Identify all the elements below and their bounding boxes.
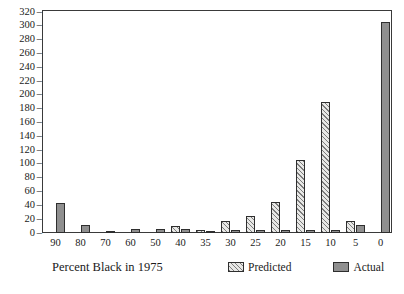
bar-predicted-15 <box>296 160 305 233</box>
y-tick-60: 60– <box>25 185 43 196</box>
y-tick-mark-icon: – <box>35 144 42 155</box>
y-tick-180: 180– <box>19 102 42 113</box>
y-tick-label: 240 <box>19 61 35 72</box>
y-tick-mark-icon: – <box>35 227 42 238</box>
bar-actual-15 <box>306 230 315 233</box>
legend-label-predicted: Predicted <box>248 261 291 273</box>
bar-predicted-5 <box>346 221 355 233</box>
y-tick-240: 240– <box>19 61 42 72</box>
y-tick-260: 260– <box>19 47 42 58</box>
y-tick-mark-icon: – <box>35 130 42 141</box>
y-tick-120: 120– <box>19 144 42 155</box>
y-tick-100: 100– <box>19 157 42 168</box>
x-tick-35: 35 <box>200 236 211 250</box>
y-tick-mark-icon: – <box>35 61 42 72</box>
bar-actual-10 <box>331 230 340 233</box>
y-tick-0: 0– <box>30 227 42 238</box>
y-tick-label: 80 <box>25 171 36 182</box>
y-tick-label: 20 <box>25 213 36 224</box>
y-axis: 0–20–40–60–80–100–120–140–160–180–200–22… <box>0 10 42 234</box>
x-tick-30: 30 <box>225 236 236 250</box>
y-tick-label: 40 <box>25 199 36 210</box>
y-tick-label: 180 <box>19 102 35 113</box>
y-tick-mark-icon: – <box>35 171 42 182</box>
y-tick-200: 200– <box>19 88 42 99</box>
y-tick-mark-icon: – <box>35 185 42 196</box>
y-tick-label: 120 <box>19 144 35 155</box>
legend-swatch-predicted-icon <box>228 262 244 272</box>
y-tick-mark-icon: – <box>35 88 42 99</box>
y-tick-label: 300 <box>19 19 35 30</box>
x-tick-20: 20 <box>275 236 286 250</box>
y-tick-mark-icon: – <box>35 33 42 44</box>
legend-label-actual: Actual <box>353 261 384 273</box>
bar-group-70 <box>93 10 118 233</box>
y-tick-label: 140 <box>19 130 35 141</box>
y-tick-label: 160 <box>19 116 35 127</box>
bar-actual-60 <box>131 229 140 233</box>
bar-actual-90 <box>56 203 65 233</box>
bar-group-90 <box>43 10 68 233</box>
x-axis: 90807060504035302520151050 <box>42 236 392 252</box>
y-tick-mark-icon: – <box>35 75 42 86</box>
bar-predicted-30 <box>221 221 230 233</box>
y-tick-160: 160– <box>19 116 42 127</box>
x-tick-10: 10 <box>325 236 336 250</box>
bar-predicted-25 <box>246 216 255 233</box>
bar-actual-80 <box>81 225 90 233</box>
bar-predicted-20 <box>271 202 280 233</box>
bar-group-30 <box>218 10 243 233</box>
y-tick-mark-icon: – <box>35 102 42 113</box>
x-tick-0: 0 <box>378 236 383 250</box>
y-tick-140: 140– <box>19 130 42 141</box>
y-tick-mark-icon: – <box>35 213 42 224</box>
bar-actual-70 <box>106 231 115 234</box>
y-tick-280: 280– <box>19 33 42 44</box>
bar-actual-30 <box>231 230 240 233</box>
bar-group-40 <box>168 10 193 233</box>
bar-actual-50 <box>156 229 165 233</box>
x-tick-80: 80 <box>75 236 86 250</box>
y-tick-mark-icon: – <box>35 6 42 17</box>
x-tick-15: 15 <box>300 236 311 250</box>
bar-predicted-40 <box>171 226 180 233</box>
x-tick-70: 70 <box>100 236 111 250</box>
y-tick-label: 260 <box>19 47 35 58</box>
chart-legend: Predicted Actual <box>228 259 384 275</box>
y-tick-20: 20– <box>25 213 43 224</box>
bar-actual-5 <box>356 225 365 233</box>
bar-actual-0 <box>381 22 390 233</box>
y-tick-40: 40– <box>25 199 43 210</box>
y-tick-mark-icon: – <box>35 199 42 210</box>
bar-group-35 <box>193 10 218 233</box>
bar-predicted-35 <box>196 230 205 233</box>
y-tick-label: 320 <box>19 6 35 17</box>
y-tick-220: 220– <box>19 75 42 86</box>
x-tick-90: 90 <box>50 236 61 250</box>
bar-group-0 <box>368 10 393 233</box>
y-tick-label: 200 <box>19 88 35 99</box>
bar-group-50 <box>143 10 168 233</box>
legend-item-predicted: Predicted <box>228 261 291 273</box>
legend-swatch-actual-icon <box>333 262 349 272</box>
y-tick-mark-icon: – <box>35 47 42 58</box>
y-tick-mark-icon: – <box>35 157 42 168</box>
y-tick-80: 80– <box>25 171 43 182</box>
y-tick-mark-icon: – <box>35 116 42 127</box>
bar-actual-20 <box>281 230 290 233</box>
x-tick-50: 50 <box>150 236 161 250</box>
y-tick-300: 300– <box>19 19 42 30</box>
legend-item-actual: Actual <box>333 261 384 273</box>
bar-group-15 <box>293 10 318 233</box>
y-tick-320: 320– <box>19 6 42 17</box>
y-tick-label: 280 <box>19 33 35 44</box>
x-tick-60: 60 <box>125 236 136 250</box>
y-tick-label: 100 <box>19 157 35 168</box>
bar-actual-35 <box>206 231 215 234</box>
x-tick-25: 25 <box>250 236 261 250</box>
bar-group-60 <box>118 10 143 233</box>
bar-group-25 <box>243 10 268 233</box>
bar-group-10 <box>318 10 343 233</box>
bar-group-20 <box>268 10 293 233</box>
y-tick-mark-icon: – <box>35 19 42 30</box>
